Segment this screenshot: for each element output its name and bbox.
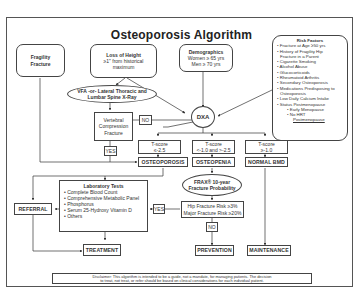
dxa-node: DXA (191, 106, 215, 128)
yes-label-frax: YES (153, 204, 165, 214)
hip-fracture-risk-node: Hip Fracture Risk ≥3% Major Fracture Ris… (181, 201, 244, 218)
laboratory-tests-node: Laboratory Tests • Complete Blood Count … (59, 180, 148, 232)
normal-bmd-node: NORMAL BMD (245, 157, 288, 167)
demographics-node: Demographics Women ≥ 65 yrs Men ≥ 70 yrs (179, 44, 233, 72)
vertebral-compression-fracture-node: Vertebral Compression Fracture (94, 112, 133, 141)
fragility-fracture-node: Fragility Fracture (16, 44, 65, 77)
risk-factors-node: Risk Factors • Fracture at Age ≥50 yrs •… (272, 35, 348, 141)
disclaimer-box: Disclaimer: This algorithm is intended t… (52, 273, 312, 284)
no-label-vcf: NO (139, 115, 152, 125)
vfa-xray-node: VFA -or- Lateral Thoracic and Lumbar Spi… (67, 85, 157, 103)
frax-node: FRAX® 10-year Fracture Probability (182, 174, 242, 196)
osteopenia-node: OSTEOPENIA (192, 157, 235, 167)
prevention-node: PREVENTION (195, 245, 234, 256)
tscore-osteoporosis-node: T-score ≤-2.5 (138, 140, 181, 154)
treatment-node: TREATMENT (83, 244, 121, 256)
tscore-osteopenia-node: T-score <-1.0 and >-2.5 (192, 140, 235, 154)
osteoporosis-node: OSTEOPOROSIS (138, 157, 188, 167)
lab-test-item: • Others (64, 213, 82, 219)
referral-node: REFERRAL (14, 203, 52, 215)
risk-factor-subitem: Postmenopause (277, 117, 325, 122)
yes-label-vcf: YES (104, 146, 117, 156)
maintenance-node: MAINTENANCE (247, 245, 291, 256)
no-label-frax: NO (206, 222, 218, 232)
tscore-normal-node: T-score ≥-1.0 (245, 140, 288, 154)
loss-of-height-node: Loss of Height ≥1" from historical maxim… (90, 44, 157, 78)
